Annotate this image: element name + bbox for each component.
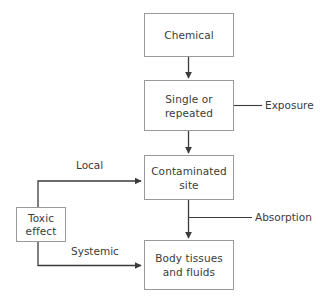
node-toxic-effect[interactable]: Toxic effect: [16, 207, 66, 242]
flow-diagram: Chemical Single or repeated Contaminated…: [0, 0, 320, 299]
node-single-or-repeated[interactable]: Single or repeated: [144, 80, 234, 131]
node-body-tissues-and-fluids[interactable]: Body tissues and fluids: [144, 240, 234, 290]
edge-label-systemic: Systemic: [71, 245, 119, 258]
node-chemical[interactable]: Chemical: [144, 13, 234, 57]
callout-label-absorption: Absorption: [255, 211, 312, 224]
connector-toxic-to-contaminated-local: [38, 181, 141, 207]
callout-label-exposure: Exposure: [265, 99, 314, 112]
edge-label-local: Local: [76, 159, 103, 172]
node-contaminated-site[interactable]: Contaminated site: [144, 155, 234, 200]
